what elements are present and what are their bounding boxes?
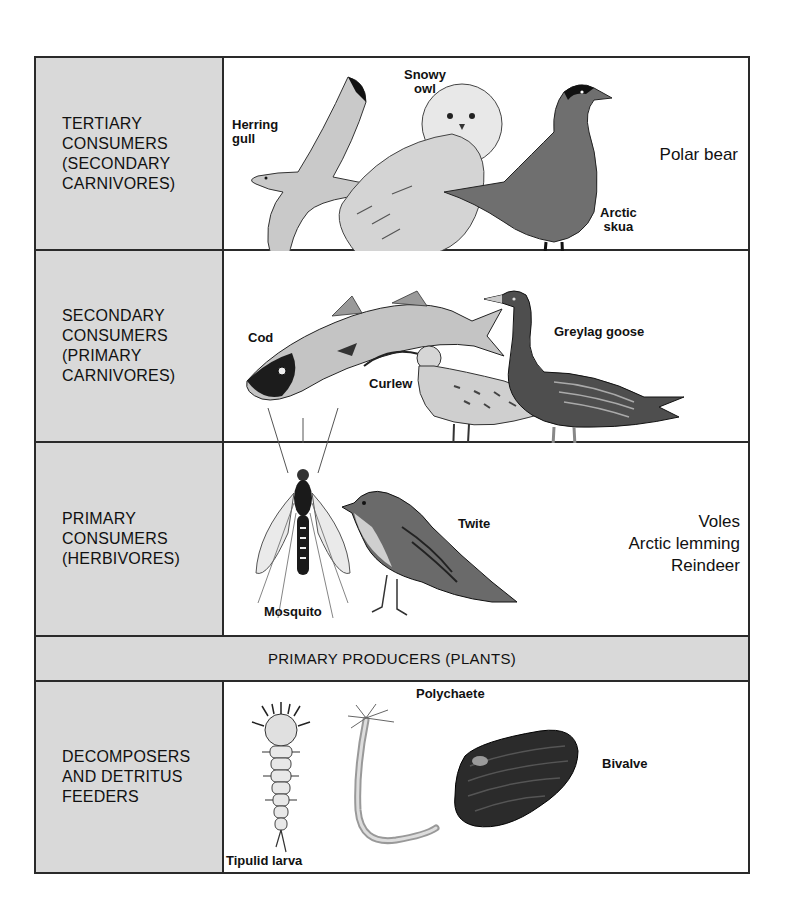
illustration-pane: Herring gull Snowy owl Arctic skua Polar… (224, 58, 748, 249)
row-primary-producers: PRIMARY PRODUCERS (PLANTS) (36, 637, 748, 682)
polychaete-illustration (336, 700, 446, 850)
row-label: SECONDARY CONSUMERS (PRIMARY CARNIVORES) (36, 306, 175, 386)
organism-label-bivalve: Bivalve (602, 757, 648, 771)
text-polar-bear: Polar bear (660, 144, 738, 166)
bivalve-illustration (450, 726, 590, 836)
row-tertiary-consumers: TERTIARY CONSUMERS (SECONDARY CARNIVORES… (36, 58, 748, 251)
organism-label-polychaete: Polychaete (416, 687, 485, 701)
twite-illustration (342, 487, 532, 627)
organism-label-snowy-owl: Snowy owl (404, 68, 446, 96)
row-label: TERTIARY CONSUMERS (SECONDARY CARNIVORES… (36, 114, 175, 194)
row-label: DECOMPOSERS AND DETRITUS FEEDERS (36, 747, 190, 807)
band-label: PRIMARY PRODUCERS (PLANTS) (268, 650, 516, 667)
food-web-table: TERTIARY CONSUMERS (SECONDARY CARNIVORES… (34, 56, 750, 874)
organism-label-arctic-skua: Arctic skua (600, 206, 637, 234)
organism-label-curlew: Curlew (369, 377, 412, 391)
label-cell: TERTIARY CONSUMERS (SECONDARY CARNIVORES… (36, 58, 224, 249)
row-decomposers: DECOMPOSERS AND DETRITUS FEEDERS (36, 682, 748, 872)
tipulid-larva-illustration (246, 702, 316, 862)
illustration-pane: Mosquito Twite Voles Arctic lemming Rein… (224, 443, 748, 635)
organism-label-mosquito: Mosquito (264, 605, 322, 619)
row-primary-consumers: PRIMARY CONSUMERS (HERBIVORES) (36, 443, 748, 637)
illustration-pane: Tipulid larva Polychaete Bivalve (224, 682, 748, 872)
row-secondary-consumers: SECONDARY CONSUMERS (PRIMARY CARNIVORES) (36, 251, 748, 443)
organism-label-greylag-goose: Greylag goose (554, 325, 644, 339)
greylag-goose-illustration (484, 287, 694, 467)
organism-label-twite: Twite (458, 517, 490, 531)
text-voles-lemming-reindeer: Voles Arctic lemming Reindeer (629, 511, 740, 577)
organism-label-herring-gull: Herring gull (232, 118, 278, 146)
organism-label-cod: Cod (248, 331, 273, 345)
label-cell: PRIMARY CONSUMERS (HERBIVORES) (36, 443, 224, 635)
row-label: PRIMARY CONSUMERS (HERBIVORES) (36, 509, 180, 569)
organism-label-tipulid-larva: Tipulid larva (226, 854, 302, 868)
label-cell: SECONDARY CONSUMERS (PRIMARY CARNIVORES) (36, 251, 224, 441)
label-cell: DECOMPOSERS AND DETRITUS FEEDERS (36, 682, 224, 872)
